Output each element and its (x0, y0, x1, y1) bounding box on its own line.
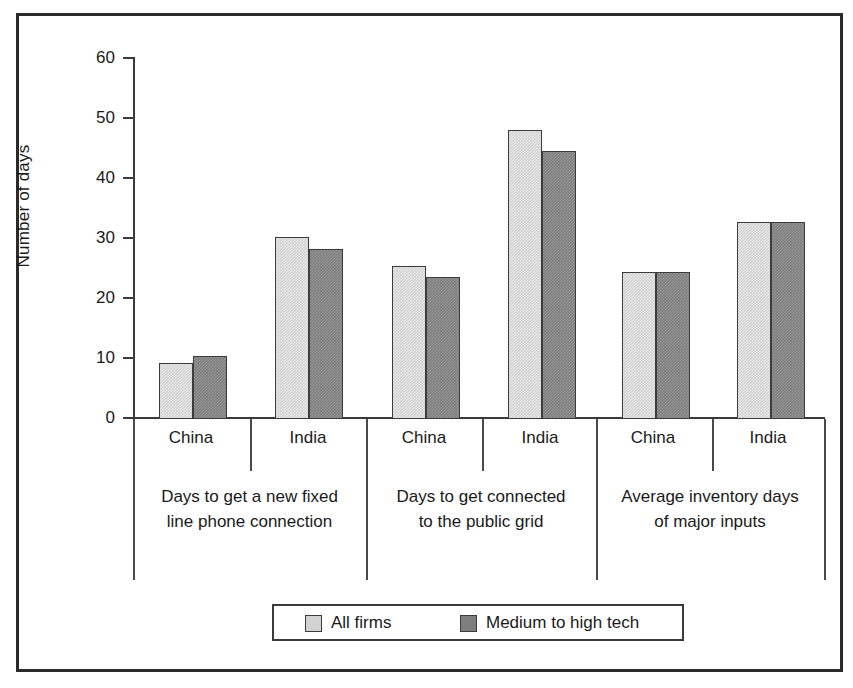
x-axis-line (133, 417, 825, 419)
separator-country-3 (712, 419, 714, 471)
group-label-inventory-line1: Average inventory days (596, 484, 824, 509)
x-label-india-2: India (482, 428, 598, 448)
bar (275, 237, 309, 419)
x-label-china-1: China (133, 428, 249, 448)
x-label-india-3: India (710, 428, 826, 448)
bar (309, 249, 343, 419)
bar (656, 272, 690, 419)
x-label-china-2: China (366, 428, 482, 448)
y-tick-20 (123, 297, 134, 299)
y-tick-label-60: 60 (55, 49, 115, 66)
y-tick-label-50: 50 (55, 109, 115, 126)
y-tick-label-0: 0 (55, 409, 115, 426)
y-tick-30 (123, 237, 134, 239)
group-label-phone-line2: line phone connection (133, 509, 366, 534)
bar (737, 222, 771, 419)
y-tick-label-30: 30 (55, 229, 115, 246)
separator-country-1 (250, 419, 252, 471)
x-label-china-3: China (595, 428, 711, 448)
legend-swatch-medium-to-high-tech (460, 615, 477, 632)
legend-label-all-firms: All firms (331, 613, 391, 633)
group-label-phone-line1: Days to get a new fixed (133, 484, 366, 509)
y-tick-label-40: 40 (55, 169, 115, 186)
separator-country-2 (482, 419, 484, 471)
y-tick-50 (123, 117, 134, 119)
bar (622, 272, 656, 419)
y-tick-label-20: 20 (55, 289, 115, 306)
bar (542, 151, 576, 419)
legend-item-medium-to-high-tech: Medium to high tech (460, 613, 639, 633)
bar (771, 222, 805, 419)
y-tick-10 (123, 357, 134, 359)
bar (193, 356, 227, 419)
y-tick-label-10: 10 (55, 349, 115, 366)
bar (426, 277, 460, 419)
legend-swatch-all-firms (305, 615, 322, 632)
legend-item-all-firms: All firms (305, 613, 391, 633)
y-tick-40 (123, 177, 134, 179)
bar (508, 130, 542, 419)
x-label-india-1: India (250, 428, 366, 448)
y-axis-title: Number of days (14, 106, 34, 306)
group-label-inventory-line2: of major inputs (596, 509, 824, 534)
y-tick-60 (123, 57, 134, 59)
group-label-inventory: Average inventory days of major inputs (596, 484, 824, 534)
legend-label-medium-to-high-tech: Medium to high tech (486, 613, 639, 633)
bar (159, 363, 193, 419)
group-label-grid-line1: Days to get connected (366, 484, 596, 509)
chart-legend: All firms Medium to high tech (272, 604, 684, 641)
group-label-grid: Days to get connected to the public grid (366, 484, 596, 534)
group-label-grid-line2: to the public grid (366, 509, 596, 534)
bar (392, 266, 426, 419)
chart-figure: Number of days 60 50 40 30 20 10 0 China… (0, 0, 853, 688)
separator-group-right (824, 419, 826, 580)
group-label-phone: Days to get a new fixed line phone conne… (133, 484, 366, 534)
